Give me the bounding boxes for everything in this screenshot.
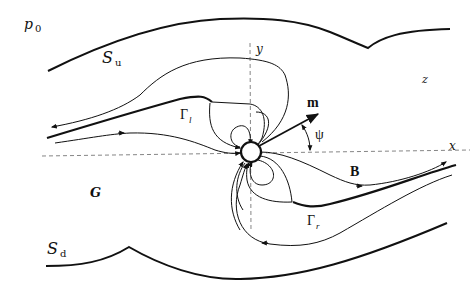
label-su: Su: [102, 50, 121, 66]
label-y-axis: y: [256, 43, 263, 55]
label-b-field: B: [350, 165, 359, 179]
label-p0: p0: [24, 17, 41, 31]
label-gamma-r: Γr: [307, 214, 320, 228]
dipole-circle: [241, 142, 261, 162]
label-gamma-l: Γl: [180, 108, 192, 122]
label-g: G: [90, 186, 101, 199]
label-sd: Sd: [47, 241, 66, 257]
label-psi: ψ: [315, 128, 324, 142]
separatrix-gamma-r: [293, 165, 456, 206]
psi-angle-arc: [302, 125, 310, 150]
label-m: m: [307, 96, 319, 110]
magnetic-field-diagram: [0, 0, 475, 304]
label-x-axis: x: [449, 140, 456, 152]
label-z: z: [422, 74, 428, 85]
lower-boundary-sd: [46, 223, 447, 279]
